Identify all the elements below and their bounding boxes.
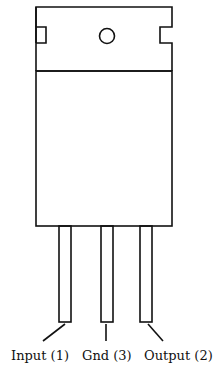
leader-output: [148, 324, 163, 341]
mounting-tab-left-notch: [36, 27, 46, 43]
pin-label-gnd: Gnd (3): [82, 348, 132, 363]
pin-gnd: [101, 226, 113, 322]
pin-input: [59, 226, 71, 322]
pin-output: [140, 226, 152, 322]
leader-input: [43, 324, 65, 341]
package-body: [36, 71, 172, 226]
pin-label-output: Output (2): [144, 348, 213, 363]
pin-label-input: Input (1): [11, 348, 69, 363]
mounting-hole-icon: [100, 29, 115, 44]
package-diagram: Input (1) Gnd (3) Output (2): [0, 0, 216, 382]
mounting-tab: [36, 7, 172, 71]
